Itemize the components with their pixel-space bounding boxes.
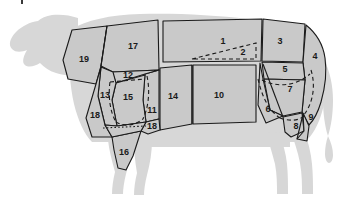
top-artifact-speck [21,0,23,4]
cut-label-16: 16 [119,147,129,157]
cut-label-5: 5 [282,64,287,74]
cut-label-17: 17 [128,41,138,51]
cut-region-10[interactable] [193,65,256,124]
beef-cuts-diagram: 1 2 3 4 5 6 7 8 9 10 11 12 13 14 15 16 1… [0,0,344,203]
cut-label-9: 9 [308,112,313,122]
cut-label-13: 13 [100,90,110,100]
cut-label-8: 8 [293,121,298,131]
diagram-canvas: 1 2 3 4 5 6 7 8 9 10 11 12 13 14 15 16 1… [0,0,344,203]
cut-label-7: 7 [287,84,292,94]
cut-label-6: 6 [265,104,270,114]
cut-label-11: 11 [147,105,157,115]
cut-label-18-right: 18 [147,121,157,131]
cut-label-4: 4 [312,51,317,61]
cow-front-leg-far-silhouette [134,140,152,195]
cut-label-18-left: 18 [90,110,100,120]
cut-label-19: 19 [79,54,89,64]
cut-label-14: 14 [168,91,178,101]
cut-label-12: 12 [123,70,133,80]
cut-label-3: 3 [277,36,282,46]
cut-label-15: 15 [123,92,133,102]
cut-label-1: 1 [220,36,225,46]
cut-region-1[interactable] [163,19,262,62]
cut-label-10: 10 [214,90,224,100]
cow-belly-silhouette [150,139,290,147]
cut-label-2: 2 [240,47,245,57]
cut-region-3[interactable] [262,19,305,62]
